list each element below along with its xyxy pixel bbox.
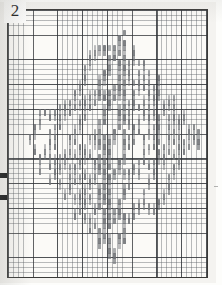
- stitch-mark: [39, 169, 41, 175]
- stitch-mark: [123, 194, 125, 200]
- stitch-mark: [69, 169, 71, 175]
- stitch-mark: [138, 90, 140, 96]
- stitch-mark: [133, 213, 135, 219]
- stitch-mark: [163, 199, 165, 205]
- stitch-mark: [98, 203, 100, 209]
- stitch-mark: [178, 164, 180, 170]
- stitch-mark: [34, 144, 36, 150]
- stitch-mark: [69, 100, 71, 106]
- stitch-mark: [128, 124, 130, 130]
- stitch-mark: [158, 75, 160, 81]
- stitch-mark: [49, 114, 51, 120]
- stitch-mark: [79, 174, 81, 180]
- stitch-mark: [148, 164, 150, 170]
- stitch-mark: [103, 238, 105, 244]
- stitch-mark: [64, 114, 66, 120]
- edge-registration-tick-upper: [0, 173, 7, 178]
- stitch-mark: [54, 129, 56, 135]
- stitch-mark: [148, 149, 150, 155]
- stitch-mark: [128, 60, 130, 66]
- stitch-mark: [84, 144, 86, 150]
- stitch-mark: [94, 179, 96, 185]
- stitch-mark: [123, 238, 125, 244]
- stitch-mark: [98, 243, 100, 249]
- stitch-mark: [138, 129, 140, 135]
- stitch-mark: [113, 55, 115, 61]
- stitch-mark: [34, 124, 36, 130]
- stitch-mark: [173, 139, 175, 145]
- stitch-mark: [108, 149, 110, 155]
- stitch-mark: [113, 174, 115, 180]
- stitch-mark: [44, 144, 46, 150]
- stitch-mark: [108, 70, 110, 76]
- stitch-mark: [128, 80, 130, 86]
- stitch-mark: [84, 80, 86, 86]
- stitch-mark: [44, 109, 46, 115]
- stitch-mark: [89, 174, 91, 180]
- stitch-mark: [39, 124, 41, 130]
- stitch-mark: [79, 80, 81, 86]
- stitch-mark: [34, 134, 36, 140]
- stitch-mark: [118, 208, 120, 214]
- scan-speck: [214, 186, 218, 187]
- stitch-mark: [143, 85, 145, 91]
- stitch-mark: [94, 159, 96, 165]
- stitch-mark: [94, 100, 96, 106]
- stitch-mark: [59, 179, 61, 185]
- stitch-mark: [108, 45, 110, 51]
- stitch-mark: [118, 40, 120, 46]
- stitch-mark: [69, 109, 71, 115]
- stitch-mark: [197, 144, 199, 150]
- stitch-mark: [148, 134, 150, 140]
- stitch-mark: [108, 134, 110, 140]
- stitch-mark: [74, 129, 76, 135]
- stitch-mark: [193, 124, 195, 130]
- stitch-mark: [108, 208, 110, 214]
- stitch-mark: [103, 95, 105, 101]
- stitch-mark: [118, 243, 120, 249]
- stitch-mark: [168, 149, 170, 155]
- stitch-mark: [103, 149, 105, 155]
- stitch-mark: [178, 114, 180, 120]
- stitch-mark: [188, 144, 190, 150]
- stitch-mark: [98, 169, 100, 175]
- stitch-mark: [84, 65, 86, 71]
- stitch-mark: [98, 139, 100, 145]
- stitch-mark: [113, 258, 115, 264]
- stitch-mark: [123, 218, 125, 224]
- stitch-mark: [113, 139, 115, 145]
- stitch-mark: [49, 149, 51, 155]
- stitch-mark: [94, 223, 96, 229]
- chart-frame: [7, 9, 208, 278]
- stitch-mark: [108, 95, 110, 101]
- stitch-mark: [133, 129, 135, 135]
- stitch-mark: [64, 154, 66, 160]
- stitch-mark: [128, 134, 130, 140]
- stitch-mark: [69, 154, 71, 160]
- stitch-mark: [94, 134, 96, 140]
- stitch-mark: [168, 95, 170, 101]
- stitch-mark: [178, 144, 180, 150]
- stitch-mark: [69, 179, 71, 185]
- stitch-mark: [94, 129, 96, 135]
- stitch-mark: [79, 189, 81, 195]
- stitch-mark: [89, 134, 91, 140]
- stitch-mark: [103, 169, 105, 175]
- stitch-mark: [89, 199, 91, 205]
- stitch-mark: [79, 149, 81, 155]
- stitch-mark: [108, 223, 110, 229]
- stitch-mark: [183, 119, 185, 125]
- stitch-mark: [98, 184, 100, 190]
- stitch-mark: [94, 144, 96, 150]
- stitch-mark: [74, 104, 76, 110]
- stitch-mark: [54, 114, 56, 120]
- stitch-mark: [89, 65, 91, 71]
- stitch-mark: [98, 134, 100, 140]
- stitch-mark: [158, 114, 160, 120]
- stitch-mark: [118, 124, 120, 130]
- stitch-mark: [59, 159, 61, 165]
- stitch-mark: [113, 95, 115, 101]
- stitch-mark: [173, 154, 175, 160]
- stitch-mark: [148, 184, 150, 190]
- stitch-mark: [133, 45, 135, 51]
